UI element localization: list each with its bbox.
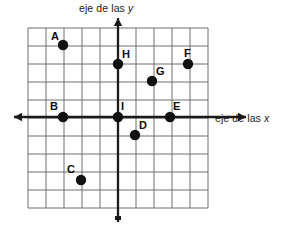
x-axis-arrow-right <box>238 113 246 121</box>
point-label-c: C <box>67 164 75 175</box>
data-point-a <box>58 40 68 50</box>
point-label-b: B <box>50 101 58 112</box>
data-point-h <box>113 59 123 69</box>
point-label-e: E <box>173 101 180 112</box>
y-axis-arrow-up <box>114 18 122 26</box>
data-point-e <box>165 112 175 122</box>
data-point-c <box>76 175 86 185</box>
data-point-markers <box>58 40 193 185</box>
coordinate-plane-figure: eje de las y eje de las x ABCDEFGHI <box>0 0 285 230</box>
plot-canvas <box>0 0 285 230</box>
point-label-h: H <box>122 49 130 60</box>
point-label-f: F <box>184 48 191 59</box>
x-axis-arrow-left <box>14 113 22 121</box>
point-label-g: G <box>156 66 165 77</box>
data-point-b <box>58 112 68 122</box>
data-point-g <box>147 76 157 86</box>
point-label-i: I <box>121 101 124 112</box>
data-point-i <box>113 112 123 122</box>
y-axis-bottom-tick <box>115 216 121 220</box>
axis-lines <box>14 18 246 222</box>
point-label-d: D <box>139 120 147 131</box>
data-point-f <box>183 59 193 69</box>
data-point-d <box>130 130 140 140</box>
point-label-a: A <box>51 31 59 42</box>
